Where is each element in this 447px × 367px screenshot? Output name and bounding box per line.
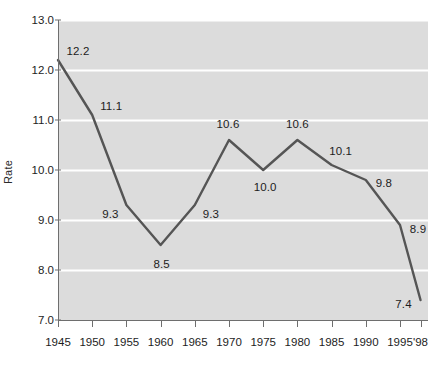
data-point-label: 7.4 (395, 298, 411, 310)
data-point-label: 9.3 (203, 208, 219, 220)
data-point-label: 8.9 (410, 223, 426, 235)
data-point-label: 10.0 (254, 181, 277, 193)
data-point-label: 8.5 (153, 258, 169, 270)
data-point-label: 10.1 (329, 145, 352, 157)
data-point-label: 10.6 (217, 118, 240, 130)
data-point-label: 11.1 (100, 100, 122, 112)
data-point-label: 9.8 (376, 177, 392, 189)
data-point-label: 10.6 (286, 118, 309, 130)
data-point-label: 12.2 (67, 45, 90, 57)
line-chart: Rate 7.08.09.010.011.012.013.0 194519501… (0, 0, 447, 367)
data-point-label: 9.3 (102, 208, 118, 220)
data-point-labels: 12.211.19.38.59.310.610.010.610.19.88.97… (0, 0, 447, 367)
